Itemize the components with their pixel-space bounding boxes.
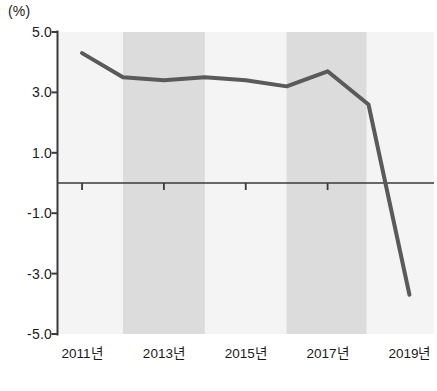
plot-area [0, 0, 437, 391]
x-tick-label: 2015년 [225, 342, 267, 362]
x-tick-label: 2013년 [143, 342, 185, 362]
chart-container: (%) 5.0 3.0 1.0 -1.0 -3.0 -5.0 2011년 201… [0, 0, 437, 391]
x-tick-label: 2017년 [307, 342, 349, 362]
x-tick-label: 2019년 [388, 342, 430, 362]
x-tick-label: 2011년 [62, 342, 103, 362]
chart-caption [0, 372, 437, 388]
